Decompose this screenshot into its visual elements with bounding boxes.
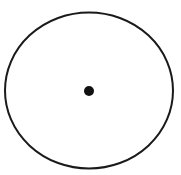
circle-figure bbox=[0, 0, 181, 175]
figure-canvas bbox=[0, 0, 181, 175]
center-dot-shape bbox=[84, 86, 94, 96]
